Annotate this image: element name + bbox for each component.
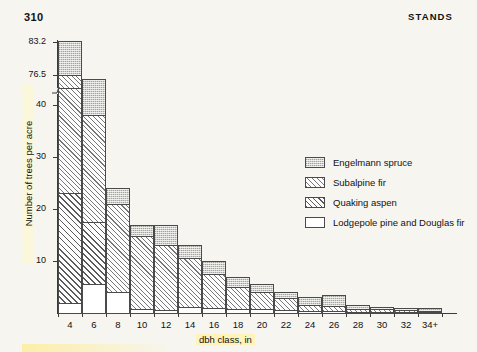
bar-10[interactable]	[130, 0, 154, 313]
bar-segment-subalpine-upper	[58, 75, 82, 89]
bar-segment-spruce	[106, 188, 130, 205]
bar-segment-spruce	[322, 295, 346, 307]
bar-segment-spruce	[418, 308, 442, 312]
bar-segment-aspen	[58, 193, 82, 303]
bar-segment-subalpine	[298, 305, 322, 312]
bar-segment-lodgepole	[106, 292, 130, 314]
bar-segment-spruce	[250, 284, 274, 293]
bar-segment-subalpine	[226, 287, 250, 310]
legend-label: Quaking aspen	[333, 197, 397, 208]
legend-label: Lodgepole pine and Douglas fir	[333, 217, 465, 228]
legend-item[interactable]: Lodgepole pine and Douglas fir	[305, 212, 465, 232]
bar-segment-lodgepole	[58, 303, 82, 314]
y-axis-title: Number of trees per acre	[23, 84, 34, 264]
bar-segment-lodgepole	[178, 307, 202, 314]
bar-segment-lodgepole	[82, 284, 106, 314]
bar-8[interactable]	[106, 0, 130, 313]
bar-18[interactable]	[226, 0, 250, 313]
bar-segment-spruce	[154, 225, 178, 247]
legend-label: Engelmann spruce	[333, 157, 412, 168]
figure-caption-sliver	[22, 344, 172, 352]
bar-14[interactable]	[178, 0, 202, 313]
legend-item[interactable]: Quaking aspen	[305, 192, 465, 212]
bar-6[interactable]	[82, 0, 106, 313]
legend-item[interactable]: Subalpine fir	[305, 172, 465, 192]
y-tick-upper	[53, 75, 57, 76]
bar-12[interactable]	[154, 0, 178, 313]
bar-segment-aspen	[82, 222, 106, 285]
bar-segment-spruce	[394, 308, 418, 312]
bar-segment-subalpine	[178, 258, 202, 307]
x-axis-title: dbh class, in	[196, 334, 255, 345]
y-tick	[53, 157, 57, 158]
bar-segment-spruce-upper	[58, 41, 82, 76]
legend-swatch-spruce	[305, 157, 325, 168]
bar-segment-spruce	[226, 277, 250, 288]
legend-swatch-aspen	[305, 197, 325, 208]
bar-segment-subalpine	[202, 274, 226, 309]
chart-legend: Engelmann spruceSubalpine firQuaking asp…	[305, 152, 465, 232]
bar-segment-subalpine	[82, 115, 106, 223]
y-tick	[53, 209, 57, 210]
bar-segment-subalpine	[130, 236, 154, 310]
bar-segment-spruce	[178, 245, 202, 259]
bar-segment-subalpine	[250, 292, 274, 310]
bar-segment-spruce	[370, 307, 394, 311]
x-tick	[442, 313, 443, 317]
bar-segment-spruce	[130, 225, 154, 237]
x-tick-label: 34+	[415, 319, 445, 330]
legend-item[interactable]: Engelmann spruce	[305, 152, 465, 172]
y-tick-upper	[53, 42, 57, 43]
bar-16[interactable]	[202, 0, 226, 313]
y-tick-upper-label: 83.2	[4, 37, 46, 46]
legend-swatch-lodgepole	[305, 217, 325, 228]
bar-segment-spruce	[298, 297, 322, 306]
bar-segment-subalpine	[58, 79, 82, 194]
y-tick	[53, 105, 57, 106]
bar-segment-spruce	[202, 261, 226, 275]
bar-4-upper-break-segments	[58, 41, 82, 88]
legend-label: Subalpine fir	[333, 177, 386, 188]
y-tick-upper-label: 76.5	[4, 70, 46, 79]
bar-segment-subalpine	[106, 204, 130, 293]
bar-segment-spruce	[274, 292, 298, 299]
bar-segment-subalpine	[154, 245, 178, 311]
bar-segment-spruce	[82, 79, 106, 116]
bar-segment-subalpine	[274, 298, 298, 310]
bar-22[interactable]	[274, 0, 298, 313]
bar-segment-spruce	[346, 305, 370, 310]
bar-20[interactable]	[250, 0, 274, 313]
y-tick	[53, 261, 57, 262]
page: 310 STANDS 1020304076.583.2 468101214161…	[0, 0, 477, 352]
legend-swatch-subalpine	[305, 177, 325, 188]
